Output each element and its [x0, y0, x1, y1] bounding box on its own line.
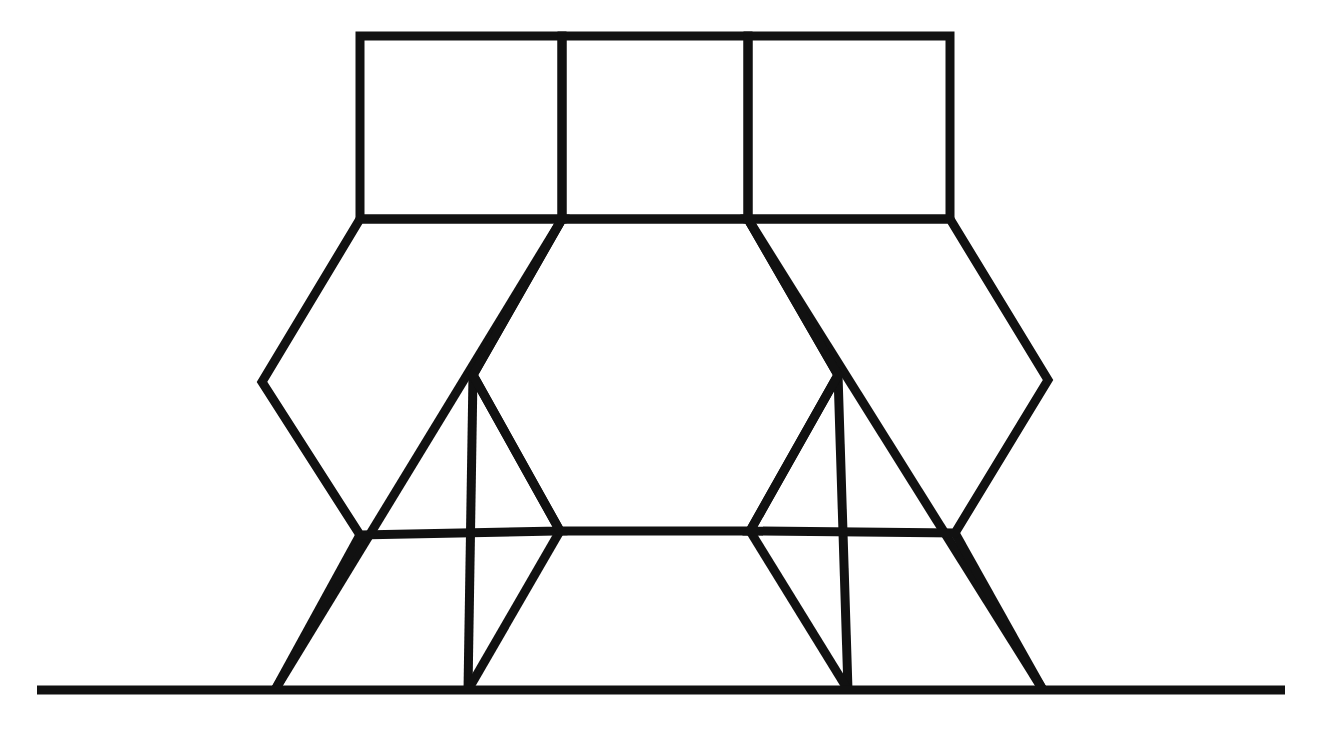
outline-hexagon-right — [748, 219, 1048, 533]
leg-left-node — [275, 535, 360, 690]
leg-hex-bot-right — [750, 531, 848, 690]
outline-hexagon-left — [262, 219, 562, 535]
face-square-left — [360, 36, 562, 219]
leg-hex-bot-left — [468, 531, 560, 690]
face-square-right — [748, 36, 950, 219]
line-drawing — [0, 0, 1327, 736]
outline-hexagon-center — [473, 219, 838, 531]
face-square-middle — [562, 36, 748, 219]
figure-canvas — [0, 0, 1327, 736]
leg-right-node — [955, 533, 1043, 690]
